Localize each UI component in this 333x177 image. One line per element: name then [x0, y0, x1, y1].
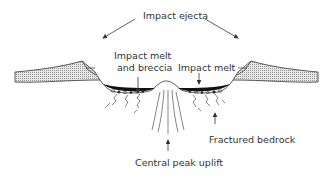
label-arrows [103, 19, 238, 151]
impact-melt-layer [103, 84, 230, 91]
ejecta-left-arrow [103, 19, 135, 38]
label-impact-ejecta: Impact ejecta [143, 10, 208, 21]
label-central-peak-uplift: Central peak uplift [135, 157, 223, 168]
label-fractured-bedrock: Fractured bedrock [209, 134, 295, 145]
label-impact-melt-breccia-2: and breccia [117, 62, 172, 73]
left-ejecta-blanket [15, 61, 100, 82]
fracture-lines [105, 94, 225, 113]
label-impact-melt: Impact melt [178, 62, 235, 73]
ejecta-right-arrow [205, 19, 238, 38]
label-impact-melt-breccia-1: Impact melt [114, 50, 171, 61]
right-ejecta-blanket [233, 61, 318, 82]
central-uplift-lines [152, 90, 184, 134]
crater-diagram [0, 0, 333, 177]
